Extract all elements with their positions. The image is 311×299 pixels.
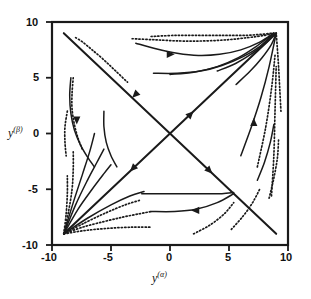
y-tick-label-0: 0 bbox=[33, 128, 39, 139]
x-tick-label-5: 5 bbox=[225, 252, 231, 263]
y-tick-label-5: 5 bbox=[33, 72, 39, 83]
x-tick-label--5: -5 bbox=[103, 252, 113, 263]
x-tick-label--10: -10 bbox=[41, 252, 57, 263]
x-tick-label-0: 0 bbox=[166, 252, 172, 263]
y-axis-title: y(β) bbox=[8, 125, 23, 141]
y-axis-title-superscript: (β) bbox=[13, 125, 22, 134]
x-tick-label-10: 10 bbox=[280, 252, 292, 263]
x-axis-title: y(α) bbox=[152, 270, 167, 286]
phase-portrait-figure: -10 -5 0 5 10 10 5 0 -5 -10 y(α) y(β) bbox=[0, 0, 311, 299]
y-tick-label-10: 10 bbox=[26, 17, 38, 28]
y-tick-label--10: -10 bbox=[22, 240, 38, 251]
x-axis-title-superscript: (α) bbox=[157, 270, 167, 279]
y-tick-label--5: -5 bbox=[28, 184, 38, 195]
